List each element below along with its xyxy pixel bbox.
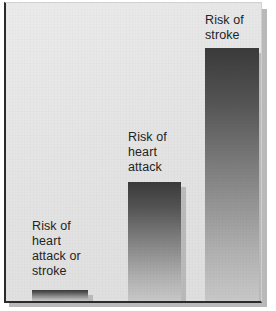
bar-chart-panel: Risk of heart attack or stroke Risk of h… (4, 2, 262, 303)
bar-group-heart-attack-or-stroke (32, 290, 88, 301)
bar-heart-attack[interactable] (128, 182, 181, 301)
bar-heart-attack-or-stroke[interactable] (32, 290, 88, 301)
bar-label-stroke: Risk of stroke (205, 13, 244, 43)
bar-label-heart-attack: Risk of heart attack (128, 130, 167, 175)
bar-stroke[interactable] (205, 48, 259, 301)
bar-label-heart-attack-or-stroke: Risk of heart attack or stroke (32, 219, 81, 279)
plot-area: Risk of heart attack or stroke Risk of h… (6, 3, 261, 301)
bar-group-stroke (205, 48, 259, 301)
bar-group-heart-attack (128, 182, 181, 301)
